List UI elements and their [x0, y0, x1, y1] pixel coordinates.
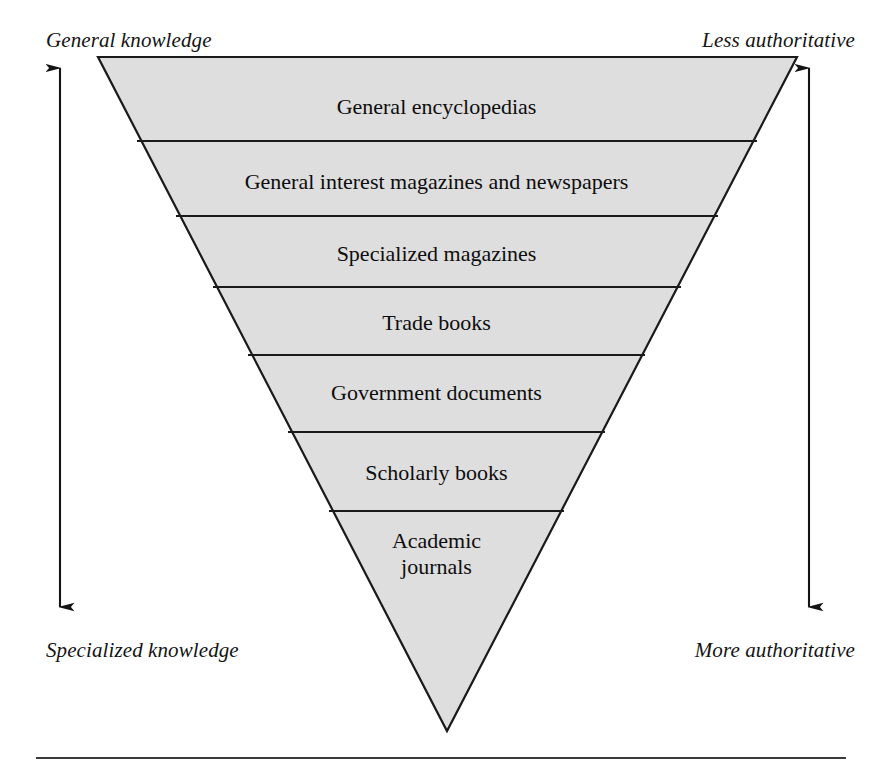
- pyramid-shape: [98, 57, 797, 731]
- figure-container: General knowledge Less authoritative Spe…: [0, 0, 873, 776]
- label-general-knowledge: General knowledge: [46, 30, 212, 51]
- label-more-authoritative: More authoritative: [695, 640, 855, 661]
- label-specialized-knowledge: Specialized knowledge: [46, 640, 239, 661]
- label-less-authoritative: Less authoritative: [702, 30, 855, 51]
